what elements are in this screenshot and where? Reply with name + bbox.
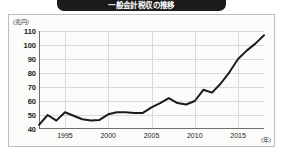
y-tick-label-80: 80 [28, 69, 36, 78]
x-tick-label-2010: 2010 [187, 132, 203, 139]
y-tick-label-70: 70 [28, 83, 36, 92]
y-tick-label-100: 100 [23, 41, 36, 50]
chart-panel: (兆円) (年) 110100908070605040 199520002005… [8, 14, 275, 147]
y-axis-unit-label: (兆円) [13, 17, 29, 26]
y-tick-label-50: 50 [28, 111, 36, 120]
x-axis-unit-label: (年) [261, 135, 271, 144]
chart-title-banner: 一般会計税収の推移 [57, 0, 226, 11]
x-tick-label-1995: 1995 [57, 132, 73, 139]
y-tick-label-90: 90 [28, 55, 36, 64]
x-tick-label-2005: 2005 [144, 132, 160, 139]
tax-revenue-line-series [39, 31, 264, 129]
y-tick-label-40: 40 [28, 125, 36, 134]
y-tick-label-110: 110 [24, 27, 36, 36]
x-tick-label-2000: 2000 [100, 132, 116, 139]
y-tick-label-60: 60 [28, 97, 36, 106]
x-tick-label-2015: 2015 [230, 132, 246, 139]
chart-screenshot: 一般会計税収の推移 (兆円) (年) 110100908070605040 19… [0, 0, 283, 159]
plot-area: 110100908070605040 19952000200520102015 [39, 31, 264, 129]
series-polyline [39, 35, 264, 125]
